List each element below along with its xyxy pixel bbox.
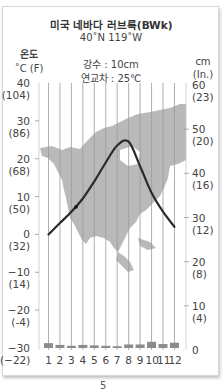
precipitation-bar: [78, 345, 87, 348]
precipitation-bar: [90, 345, 99, 348]
month-label: 1: [43, 354, 55, 366]
left-tick-label: −10(14): [0, 266, 30, 290]
location-marker: [74, 205, 78, 209]
left-tick-label: −20(-4): [0, 304, 30, 328]
left-tick-label: 20(68): [0, 153, 30, 177]
precipitation-bar: [124, 344, 133, 348]
month-label: 4: [77, 354, 89, 366]
left-tick-label: 0(32): [0, 228, 30, 252]
precipitation-bar: [67, 346, 76, 348]
precipitation-bar: [44, 343, 53, 348]
precipitation-bar: [55, 345, 64, 348]
left-tick-label: 30(86): [0, 115, 30, 139]
month-label: 9: [134, 354, 146, 366]
precipitation-bar: [113, 346, 122, 348]
right-tick-label: 10(4): [192, 300, 207, 324]
month-label: 3: [65, 354, 77, 366]
right-tick-label: 30(12): [192, 212, 214, 236]
month-label: 2: [54, 354, 66, 366]
precipitation-bar: [136, 344, 145, 348]
month-label: 12: [168, 354, 180, 366]
month-label: 6: [100, 354, 112, 366]
precipitation-bar: [101, 346, 110, 348]
precipitation-bar: [170, 343, 179, 348]
right-tick-label: 40(16): [192, 167, 214, 191]
right-tick-label: 20(8): [192, 256, 207, 280]
right-tick-label: 50(20): [192, 123, 214, 147]
precipitation-bar: [159, 344, 168, 348]
month-label: 7: [111, 354, 123, 366]
left-tick-label: 40(104): [0, 77, 30, 101]
month-label: 5: [88, 354, 100, 366]
right-tick-label: 60(23): [192, 79, 214, 103]
left-tick-label: −30(−22): [0, 342, 30, 366]
page-number-fragment: 5: [100, 380, 106, 391]
month-label: 11: [157, 354, 169, 366]
precipitation-bar: [147, 342, 156, 348]
month-label: 8: [123, 354, 135, 366]
right-tick-label: 0: [192, 344, 199, 356]
month-label: 10: [146, 354, 158, 366]
left-tick-label: 10(50): [0, 191, 30, 215]
